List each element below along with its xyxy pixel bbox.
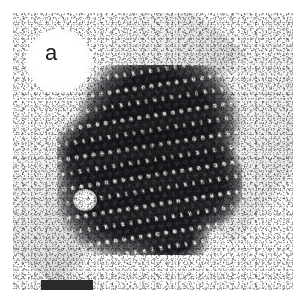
scale-bar (41, 280, 93, 290)
figure-panel: a (0, 0, 306, 299)
micrograph-image: a (13, 13, 293, 290)
panel-label: a (45, 42, 57, 64)
